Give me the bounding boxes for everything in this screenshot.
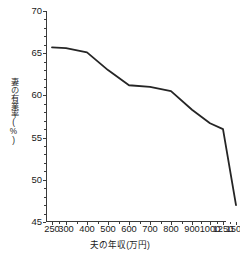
- x-tick-label: 1500: [226, 224, 240, 234]
- plot-area: [46, 11, 226, 222]
- x-axis-tick-labels: 250300400500600700800900100012501500: [0, 224, 240, 238]
- y-tick-major: [43, 222, 46, 223]
- x-tick-label: 900: [184, 224, 200, 234]
- y-tick-label: 70: [20, 6, 42, 16]
- x-tick-label: 300: [58, 224, 74, 234]
- y-axis-tick-labels: 455055606570: [18, 0, 42, 259]
- x-tick-label: 800: [163, 224, 179, 234]
- y-tick-label: 60: [20, 90, 42, 100]
- x-tick-label: 700: [142, 224, 158, 234]
- x-tick-label: 400: [79, 224, 95, 234]
- series-line: [46, 11, 226, 222]
- y-tick-label: 55: [20, 133, 42, 143]
- x-axis-title: 夫の年収(万円): [0, 240, 240, 250]
- series-polyline: [52, 47, 236, 205]
- y-axis-title: 妻の有業率(%): [2, 78, 18, 145]
- y-tick-label: 65: [20, 48, 42, 58]
- y-tick-label: 50: [20, 175, 42, 185]
- x-tick-label: 500: [100, 224, 116, 234]
- x-tick-label: 600: [121, 224, 137, 234]
- line-chart: 妻の有業率(%) 455055606570 250300400500600700…: [0, 0, 240, 259]
